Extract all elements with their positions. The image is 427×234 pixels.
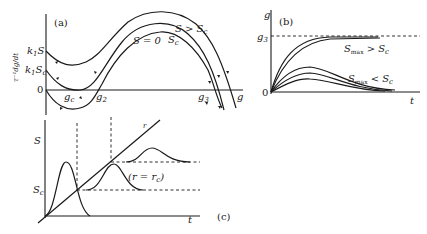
tick-g3-a: g3 xyxy=(198,91,209,104)
tick-g2: g2 xyxy=(96,91,107,104)
panel-c: S Sc r (r = rc) t (c) xyxy=(33,117,231,225)
label-s-greater-sc: S > Sc xyxy=(175,23,207,36)
tick-k1s: k1S xyxy=(27,45,45,58)
panel-a: (a) τ⁻¹dg/dt k1S k1Sc 0 gc g2 g3 g S > S… xyxy=(12,12,243,115)
label-smax-below: Smax < Sc xyxy=(348,73,393,86)
panel-c-label: (c) xyxy=(217,211,231,222)
tick-gc: gc xyxy=(64,91,74,104)
label-smax-above: Smax > Sc xyxy=(344,43,389,56)
panel-a-label: (a) xyxy=(54,17,68,28)
tick-k1sc: k1Sc xyxy=(25,64,46,77)
pulse-3 xyxy=(126,148,190,162)
panel-c-y-axis-label: S xyxy=(34,135,41,146)
label-s-zero: S = 0 xyxy=(133,35,162,46)
tick-g3-b: g3 xyxy=(257,31,268,44)
panel-b-y-axis-label: g xyxy=(264,9,270,20)
panel-a-y-axis-label: τ⁻¹dg/dt xyxy=(12,53,20,82)
pulse-1 xyxy=(45,162,90,216)
panel-b-label: (b) xyxy=(279,16,293,27)
annotation-r-rc: (r = rc) xyxy=(128,171,164,184)
tick-zero-a: 0 xyxy=(37,84,43,95)
panel-b: (b) g g3 0 t Smax > Sc Smax < Sc xyxy=(257,9,420,106)
panel-a-x-axis-label: g xyxy=(237,91,243,102)
label-r: r xyxy=(143,122,147,130)
figure-canvas: (a) τ⁻¹dg/dt k1S k1Sc 0 gc g2 g3 g S > S… xyxy=(0,0,427,234)
panel-b-x-axis-label: t xyxy=(410,95,415,106)
tick-zero-b: 0 xyxy=(262,87,268,98)
tick-sc-c: Sc xyxy=(33,184,44,197)
